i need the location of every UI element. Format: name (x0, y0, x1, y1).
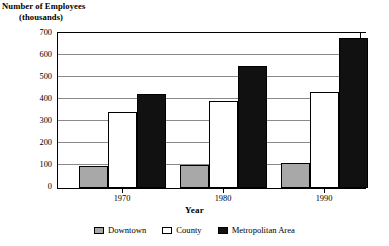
x-tick-label-1980: 1980 (200, 194, 246, 203)
bar-downtown-1990 (281, 163, 310, 188)
x-tick-1990 (324, 189, 325, 193)
y-tick-label-400: 400 (16, 95, 52, 103)
bars-layer (57, 32, 361, 189)
legend-swatch-county-icon (162, 227, 172, 234)
legend-swatch-metropolitan-area-icon (218, 227, 228, 234)
legend-item-metropolitan-area: Metropolitan Area (218, 226, 295, 235)
x-tick-1970 (122, 189, 123, 193)
y-tick-label-0: 0 (16, 183, 52, 191)
chart-legend: Downtown County Metropolitan Area (0, 226, 389, 235)
legend-label-downtown: Downtown (108, 226, 146, 235)
y-tick-label-200: 200 (16, 139, 52, 147)
bar-metro-1970 (137, 94, 166, 188)
y-axis-title-line2: (thousands) (2, 12, 152, 23)
legend-item-downtown: Downtown (94, 226, 146, 235)
right-tick-700 (361, 32, 366, 33)
right-tick-0 (361, 188, 366, 189)
x-tick-label-1990: 1990 (301, 194, 347, 203)
bar-county-1980 (209, 101, 238, 188)
y-tick-label-300: 300 (16, 117, 52, 125)
y-tick-label-600: 600 (16, 51, 52, 59)
x-tick-1980 (223, 189, 224, 193)
legend-item-county: County (162, 226, 201, 235)
x-tick-label-1970: 1970 (99, 194, 145, 203)
bar-county-1990 (310, 92, 339, 188)
bar-metro-1980 (238, 66, 267, 188)
bar-downtown-1970 (79, 166, 108, 188)
y-tick-label-100: 100 (16, 161, 52, 169)
bar-downtown-1980 (180, 165, 209, 188)
y-tick-label-500: 500 (16, 73, 52, 81)
y-axis-title-line1: Number of Employees (2, 1, 152, 12)
legend-swatch-downtown-icon (94, 227, 104, 234)
bar-metro-1990 (339, 38, 368, 188)
y-tick-label-700: 700 (16, 29, 52, 37)
bar-chart: Number of Employees (thousands) 700 600 … (0, 0, 389, 246)
y-axis-title: Number of Employees (thousands) (2, 1, 152, 22)
legend-label-county: County (176, 226, 201, 235)
legend-label-metropolitan-area: Metropolitan Area (232, 226, 295, 235)
bar-county-1970 (108, 112, 137, 188)
x-axis-title: Year (0, 205, 389, 215)
